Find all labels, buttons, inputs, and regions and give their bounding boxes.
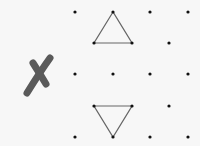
grid-dot [167,41,170,44]
grid-dot [148,10,151,13]
grid-dot [186,135,189,138]
grid-dot [130,41,133,44]
grid-dot [148,72,151,75]
grid-dot [167,104,170,107]
grid-dot [73,72,76,75]
downward-triangle [94,106,132,137]
grid-dot [186,72,189,75]
grid-dot [130,104,133,107]
cross-mark-icon [27,58,50,93]
grid-dot [186,10,189,13]
grid-dot [111,72,114,75]
grid-dot [148,135,151,138]
grid-dot [92,41,95,44]
isometric-dot-grid-diagram [0,0,200,146]
dot-grid [73,10,189,138]
grid-dot [73,10,76,13]
grid-dot [92,104,95,107]
upward-triangle [94,12,132,43]
grid-dot [73,135,76,138]
grid-dot [111,10,114,13]
grid-dot [111,135,114,138]
